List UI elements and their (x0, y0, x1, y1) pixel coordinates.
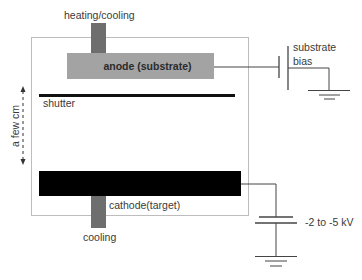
substrate-bias-circuit (214, 46, 350, 99)
arrow-up-icon (21, 86, 26, 92)
cathode-wire (241, 184, 276, 217)
bias-ground-wire (288, 68, 329, 90)
cathode-supply-circuit (241, 184, 297, 266)
circuit-wiring (0, 0, 362, 280)
distance-arrow (21, 86, 26, 165)
arrow-down-icon (21, 159, 26, 165)
